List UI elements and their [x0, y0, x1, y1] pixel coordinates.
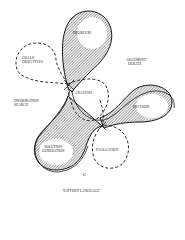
label-information-search: INFORMATION SEARCH [14, 99, 38, 107]
label-problem: PROBLEM [73, 31, 91, 35]
label-analysis: ANALYSIS [75, 91, 92, 95]
evaluation-lobe [92, 125, 128, 168]
label-goals-objectives: GOALS/ OBJECTIVES [22, 56, 43, 64]
label-goals-line2: OBJECTIVES [22, 60, 43, 64]
label-decision: DECISION [133, 105, 150, 109]
figure-caption: "PATTERN LANGUAGE" [62, 189, 101, 193]
label-solution-generation: SOLUTION GENERATION [42, 145, 64, 153]
label-argument-debate: ARGUMENT/ DEBATE [126, 58, 147, 66]
label-argument-line2: DEBATE [126, 62, 147, 66]
figure-letter: C [83, 173, 86, 177]
label-evaluation: EVALUATION [96, 148, 118, 152]
label-information-line2: SEARCH [14, 103, 38, 107]
label-solution-line2: GENERATION [42, 149, 64, 153]
